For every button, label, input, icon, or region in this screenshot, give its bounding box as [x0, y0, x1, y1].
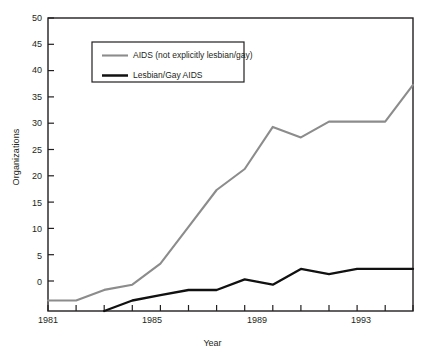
chart-figure: Organizations Year 50 45 40 35 30 25 20 … — [0, 0, 425, 359]
y-axis-title: Organizations — [11, 117, 21, 197]
y-tick-label-35: 35 — [20, 93, 42, 102]
y-tick-marks — [48, 18, 54, 281]
x-tick-marks — [48, 305, 413, 311]
y-tick-label-45: 45 — [20, 40, 42, 49]
x-tick-label-1989: 1989 — [237, 316, 277, 325]
y-tick-label-50: 50 — [20, 14, 42, 23]
y-tick-label-40: 40 — [20, 66, 42, 75]
y-tick-label-15: 15 — [20, 199, 42, 208]
y-tick-label-10: 10 — [20, 225, 42, 234]
series-line-lesbian-gay-aids — [104, 269, 413, 311]
y-tick-label-0: 0 — [20, 278, 42, 287]
y-tick-label-30: 30 — [20, 119, 42, 128]
y-tick-label-25: 25 — [20, 146, 42, 155]
x-tick-label-1985: 1985 — [132, 316, 172, 325]
x-tick-label-1981: 1981 — [28, 316, 68, 325]
x-tick-label-1993: 1993 — [341, 316, 381, 325]
y-tick-label-20: 20 — [20, 172, 42, 181]
legend-label-aids-general: AIDS (not explicitly lesbian/gay) — [133, 51, 253, 60]
legend-label-lesbian-gay-aids: Lesbian/Gay AIDS — [133, 71, 202, 80]
x-axis-title: Year — [0, 338, 425, 348]
y-tick-label-5: 5 — [20, 252, 42, 261]
